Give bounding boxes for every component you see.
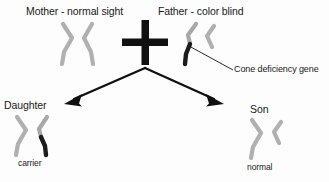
son-x-chromosome-icon [251, 120, 261, 158]
diagram-graphics [0, 0, 329, 182]
cone-deficiency-gene-label: Cone deficiency gene [234, 65, 319, 74]
arrow-to-son-icon [145, 68, 224, 107]
father-x-chromosome-upper-segment-icon [188, 24, 196, 44]
son-y-chromosome-icon [274, 122, 281, 143]
daughter-label: Daughter [4, 100, 46, 111]
inheritance-diagram: Mother - normal sight Father - color bli… [0, 0, 329, 182]
gene-annotation-leader-line [189, 46, 233, 70]
daughter-x-chromosome-affected-segment-icon [41, 137, 46, 155]
mother-chromosome-pair [62, 24, 93, 64]
arrow-to-daughter-icon [64, 68, 145, 107]
daughter-chromosome-pair [16, 117, 47, 155]
inheritance-arrows [64, 68, 224, 107]
mother-label: Mother - normal sight [26, 6, 123, 17]
daughter-x-chromosome-left-icon [16, 117, 26, 155]
father-x-chromosome-affected-segment-icon [185, 44, 190, 64]
father-chromosome-pair [185, 24, 214, 64]
son-chromosome-pair [251, 120, 281, 158]
cross-plus-icon [122, 20, 168, 65]
mother-x-chromosome-left-icon [62, 24, 72, 64]
son-status-label: normal [247, 163, 272, 172]
mother-x-chromosome-right-icon [84, 24, 93, 64]
daughter-x-chromosome-right-upper-segment-icon [39, 117, 47, 137]
daughter-status-label: carrier [18, 159, 41, 168]
father-label: Father - color blind [158, 6, 244, 17]
son-label: Son [250, 104, 268, 115]
father-y-chromosome-icon [207, 26, 214, 47]
